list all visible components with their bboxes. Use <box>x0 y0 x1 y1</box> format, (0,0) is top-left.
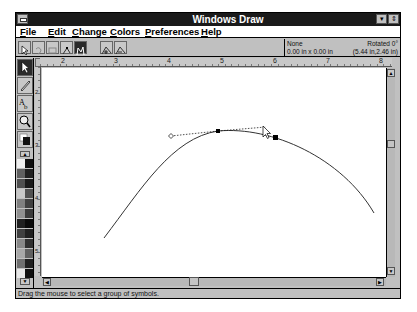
fill-color-tool[interactable] <box>17 131 33 148</box>
status-bar: Drag the mouse to select a group of symb… <box>16 288 400 298</box>
vertical-scroll-thumb[interactable] <box>387 140 395 148</box>
color-swatch[interactable] <box>17 219 25 228</box>
scroll-left-button[interactable]: ◀ <box>43 278 51 286</box>
pencil-icon <box>18 78 32 93</box>
scroll-down-button[interactable]: ▼ <box>387 267 395 275</box>
color-swatch[interactable] <box>25 239 33 248</box>
app-window: Windows Draw ▾ ⇕ File Edit Change Colors… <box>15 12 401 299</box>
drawing-svg <box>42 68 386 277</box>
text-icon: Ab <box>18 96 32 111</box>
vertical-ruler: 2 3 4 5 <box>35 67 41 276</box>
bezier-curve[interactable] <box>104 130 374 238</box>
size-info: 0.00 in x 0.00 in <box>287 48 333 55</box>
color-swatch[interactable] <box>17 169 25 178</box>
control-handle-left[interactable] <box>169 134 174 139</box>
horizontal-scrollbar[interactable]: ◀ ▶ <box>42 277 386 286</box>
color-swatch[interactable] <box>17 189 25 198</box>
node-edit-icon <box>61 45 72 56</box>
color-swatch[interactable] <box>25 169 33 178</box>
pointer-icon <box>18 60 32 75</box>
control-handle-line-right <box>218 127 266 131</box>
color-swatch[interactable] <box>25 229 33 238</box>
color-swatch[interactable] <box>17 269 25 278</box>
color-swatch[interactable] <box>17 239 25 248</box>
selected-node[interactable] <box>273 135 278 140</box>
scroll-up-button[interactable]: ▲ <box>387 69 395 77</box>
menu-change[interactable]: Change <box>72 26 107 38</box>
toolbox: Ab ▲ ▼ <box>16 58 34 288</box>
drawing-canvas[interactable] <box>42 68 386 277</box>
color-swatch[interactable] <box>17 199 25 208</box>
color-swatch[interactable] <box>25 199 33 208</box>
menu-preferences[interactable]: Preferences <box>145 26 199 38</box>
menu-bar: File Edit Change Colors Preferences Help <box>16 26 400 38</box>
color-swatch[interactable] <box>25 269 33 278</box>
minimize-button[interactable]: ▾ <box>376 14 387 24</box>
color-swatch[interactable] <box>17 209 25 218</box>
vertical-scrollbar[interactable]: ▲ ▼ <box>386 68 395 277</box>
select-arrow-button[interactable] <box>18 41 31 54</box>
color-swatch[interactable] <box>25 179 33 188</box>
zoom-tool[interactable] <box>17 113 33 130</box>
color-swatch[interactable] <box>25 159 33 168</box>
svg-text:b: b <box>24 103 28 111</box>
color-swatch[interactable] <box>17 249 25 258</box>
menu-help[interactable]: Help <box>201 26 222 38</box>
color-swatch[interactable] <box>17 259 25 268</box>
color-swatch[interactable] <box>17 229 25 238</box>
magnifier-icon <box>18 114 32 129</box>
add-node-icon <box>101 45 112 56</box>
arrow-icon <box>19 45 30 56</box>
control-handle-line-left <box>171 131 218 136</box>
delete-node-button[interactable] <box>114 41 127 54</box>
color-swatch[interactable] <box>25 209 33 218</box>
fill-color-icon <box>18 132 32 147</box>
curve-edit-icon <box>75 45 86 56</box>
delete-node-icon <box>115 45 126 56</box>
node-edit-button[interactable] <box>60 41 73 54</box>
position-info: (5.44 in,2.46 in) <box>353 48 398 55</box>
add-node-button[interactable] <box>100 41 113 54</box>
color-swatch[interactable] <box>25 249 33 258</box>
curve-edit-button[interactable] <box>74 41 87 54</box>
anchor-node[interactable] <box>216 129 220 133</box>
rectangle-button[interactable] <box>46 41 59 54</box>
text-tool[interactable]: Ab <box>17 95 33 112</box>
pencil-tool[interactable] <box>17 77 33 94</box>
color-swatch[interactable] <box>25 259 33 268</box>
menu-file[interactable]: File <box>20 26 36 38</box>
window-title: Windows Draw <box>16 13 400 26</box>
palette-scroll-down[interactable]: ▼ <box>20 278 30 285</box>
rectangle-icon <box>47 45 58 56</box>
menu-colors[interactable]: Colors <box>110 26 140 38</box>
title-bar[interactable]: Windows Draw ▾ ⇕ <box>16 13 400 26</box>
rotation-info: Rotated 0° <box>367 40 398 47</box>
mouse-cursor-icon <box>263 126 271 139</box>
restore-button[interactable]: ⇕ <box>388 14 399 24</box>
palette-scroll-up[interactable]: ▲ <box>20 151 30 157</box>
undo-button[interactable] <box>32 41 45 54</box>
color-swatch[interactable] <box>25 189 33 198</box>
color-swatch[interactable] <box>17 179 25 188</box>
pointer-tool[interactable] <box>17 59 33 76</box>
fill-info: None <box>287 40 303 47</box>
horizontal-ruler: 2 3 4 5 6 7 8 <box>40 58 392 67</box>
color-swatch[interactable] <box>25 219 33 228</box>
color-swatch[interactable] <box>17 159 25 168</box>
menu-edit[interactable]: Edit <box>48 26 66 38</box>
object-info-panel: None Rotated 0° 0.00 in x 0.00 in (5.44 … <box>284 39 400 57</box>
horizontal-scroll-thumb[interactable] <box>189 277 199 286</box>
scroll-right-button[interactable]: ▶ <box>376 278 384 286</box>
undo-icon <box>33 45 44 56</box>
